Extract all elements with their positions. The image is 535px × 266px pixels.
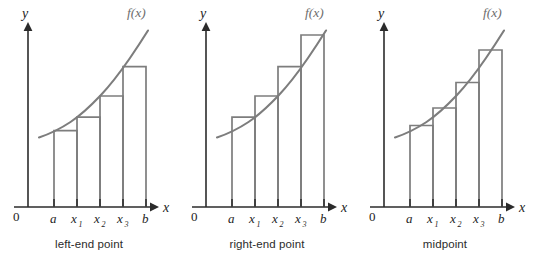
svg-text:x: x xyxy=(116,211,123,226)
panel-right-end-point-plot: y x 0 f(x) a x 1 x 2 x 3 b xyxy=(178,0,356,266)
x-axis-label: x xyxy=(518,200,526,215)
riemann-rectangles xyxy=(54,67,146,207)
panel-caption-left-end-point: left-end point xyxy=(0,238,178,250)
svg-text:x: x xyxy=(472,211,479,226)
origin-label: 0 xyxy=(13,209,20,224)
tick-label-x1: x 1 xyxy=(248,211,261,229)
svg-text:x: x xyxy=(93,211,100,226)
tick-label-b: b xyxy=(498,211,505,226)
x-axis-label: x xyxy=(340,200,348,215)
svg-text:3: 3 xyxy=(480,220,485,229)
panel-caption-midpoint: midpoint xyxy=(356,238,534,250)
tick-label-a: a xyxy=(228,211,235,226)
riemann-sum-figure: y x 0 f(x) a x 1 x 2 x 3 b left-end poin… xyxy=(0,0,535,266)
panel-left-end-point: y x 0 f(x) a x 1 x 2 x 3 b left-end poin… xyxy=(0,0,178,266)
tick-label-x2: x 2 xyxy=(93,211,106,229)
svg-text:3: 3 xyxy=(124,220,129,229)
svg-text:x: x xyxy=(271,211,278,226)
x-axis xyxy=(14,203,159,212)
riemann-rectangles xyxy=(232,35,324,207)
svg-text:1: 1 xyxy=(79,220,83,229)
y-axis-label: y xyxy=(198,6,207,21)
y-axis-label: y xyxy=(20,6,29,21)
panel-midpoint: y x 0 f(x) a x 1 x 2 x 3 b midpoint xyxy=(356,0,534,266)
svg-text:x: x xyxy=(248,211,255,226)
panel-caption-right-end-point: right-end point xyxy=(178,238,356,250)
function-curve xyxy=(39,31,148,138)
svg-text:1: 1 xyxy=(257,220,261,229)
x-axis-ticks xyxy=(232,199,324,207)
panel-right-end-point: y x 0 f(x) a x 1 x 2 x 3 b right-end poi… xyxy=(178,0,356,266)
x-axis-ticks xyxy=(410,199,502,207)
y-axis-label: y xyxy=(376,6,385,21)
origin-label: 0 xyxy=(369,209,376,224)
tick-label-x2: x 2 xyxy=(449,211,462,229)
tick-label-x1: x 1 xyxy=(70,211,83,229)
x-axis xyxy=(192,203,337,212)
function-label: f(x) xyxy=(483,5,502,20)
y-axis xyxy=(380,22,389,207)
tick-label-x3: x 3 xyxy=(116,211,129,229)
tick-label-x3: x 3 xyxy=(294,211,307,229)
tick-label-b: b xyxy=(320,211,327,226)
function-label: f(x) xyxy=(127,5,146,20)
tick-label-x3: x 3 xyxy=(472,211,485,229)
tick-label-b: b xyxy=(142,211,149,226)
svg-text:x: x xyxy=(70,211,77,226)
riemann-rectangles xyxy=(410,50,502,207)
panel-midpoint-plot: y x 0 f(x) a x 1 x 2 x 3 b xyxy=(356,0,534,266)
panel-left-end-point-plot: y x 0 f(x) a x 1 x 2 x 3 b xyxy=(0,0,178,266)
svg-text:1: 1 xyxy=(435,220,439,229)
y-axis xyxy=(24,22,33,207)
x-axis-ticks xyxy=(54,199,146,207)
svg-text:2: 2 xyxy=(280,220,284,229)
svg-text:2: 2 xyxy=(458,220,462,229)
svg-text:x: x xyxy=(449,211,456,226)
svg-text:3: 3 xyxy=(302,220,307,229)
x-axis-label: x xyxy=(162,200,170,215)
origin-label: 0 xyxy=(191,209,198,224)
tick-label-a: a xyxy=(406,211,413,226)
svg-text:x: x xyxy=(426,211,433,226)
function-curve xyxy=(217,31,326,138)
y-axis xyxy=(202,22,211,207)
svg-text:2: 2 xyxy=(102,220,106,229)
x-axis xyxy=(370,203,515,212)
function-curve xyxy=(395,31,504,138)
function-label: f(x) xyxy=(305,5,324,20)
tick-label-x2: x 2 xyxy=(271,211,284,229)
tick-label-x1: x 1 xyxy=(426,211,439,229)
tick-label-a: a xyxy=(50,211,57,226)
svg-text:x: x xyxy=(294,211,301,226)
